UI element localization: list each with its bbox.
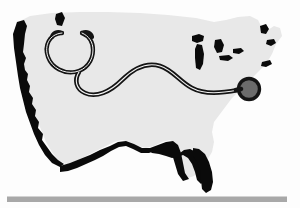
chestpiece-stem <box>236 89 241 90</box>
illustration-svg <box>0 0 300 208</box>
illustration-canvas: Healthcare across America Map of the con… <box>0 0 300 208</box>
bottom-rule <box>7 197 287 203</box>
